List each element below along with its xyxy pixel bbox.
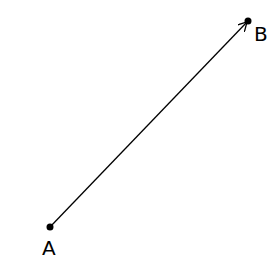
diagram-canvas: A B (0, 0, 279, 267)
vector-ab-line (50, 22, 247, 227)
point-a-dot (47, 224, 54, 231)
vector-diagram: A B (0, 0, 279, 267)
point-b-label: B (254, 22, 268, 46)
point-b-dot (245, 18, 252, 25)
point-a-label: A (42, 236, 56, 260)
